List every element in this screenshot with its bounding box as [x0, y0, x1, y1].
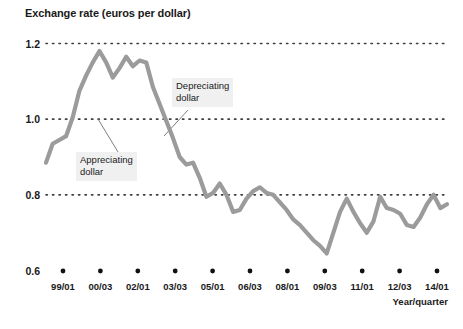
x-tick-dot — [248, 269, 253, 274]
x-tick-label: 00/03 — [89, 281, 113, 292]
x-tick-dot — [173, 269, 178, 274]
x-tick-label: 11/01 — [351, 281, 375, 292]
x-tick-dot — [210, 269, 215, 274]
x-tick-dot — [322, 269, 327, 274]
x-tick-label: 99/01 — [51, 281, 75, 292]
x-tick-label: 03/03 — [163, 281, 187, 292]
x-tick-dot — [360, 269, 365, 274]
chart-plot-area: 0.60.81.01.2 99/0100/0302/0103/0305/0106… — [0, 0, 463, 329]
y-tick-labels-group: 0.60.81.01.2 — [25, 38, 40, 277]
y-tick-label: 0.8 — [25, 189, 40, 201]
x-tick-label: 08/01 — [276, 281, 300, 292]
y-tick-label: 0.6 — [25, 265, 40, 277]
x-tick-dot — [435, 269, 440, 274]
x-tick-label: 09/03 — [313, 281, 337, 292]
x-tick-label: 14/01 — [425, 281, 449, 292]
annotation-appreciating-line1: Appreciating — [80, 154, 133, 166]
annotation-appreciating-dollar: Appreciating dollar — [76, 152, 137, 181]
y-tick-label: 1.2 — [25, 38, 40, 50]
x-tick-label: 06/03 — [238, 281, 262, 292]
x-tick-label: 05/01 — [201, 281, 225, 292]
x-tick-labels-group: 99/0100/0302/0103/0305/0106/0308/0109/03… — [51, 281, 449, 292]
annotation-depreciating-line1: Depreciating — [176, 80, 229, 92]
x-tick-dots-group — [61, 269, 440, 274]
x-axis-title: Year/quarter — [393, 296, 449, 307]
x-tick-dot — [397, 269, 402, 274]
x-tick-dot — [285, 269, 290, 274]
x-tick-dot — [135, 269, 140, 274]
y-tick-label: 1.0 — [25, 113, 40, 125]
annotation-appreciating-line2: dollar — [80, 166, 133, 178]
annotation-depreciating-line2: dollar — [176, 92, 229, 104]
x-tick-dot — [61, 269, 66, 274]
x-tick-label: 02/01 — [126, 281, 150, 292]
x-tick-dot — [98, 269, 103, 274]
chart-figure: Exchange rate (euros per dollar) 0.60.81… — [0, 0, 463, 329]
annotation-depreciating-dollar: Depreciating dollar — [172, 78, 233, 107]
x-tick-label: 12/03 — [388, 281, 412, 292]
annotation-leader-line — [98, 119, 118, 152]
